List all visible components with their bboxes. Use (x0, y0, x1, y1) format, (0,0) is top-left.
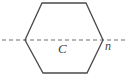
hexagon-outline (25, 3, 103, 73)
vertex-n-label: n (105, 40, 111, 52)
hexagon-figure: C n (0, 0, 132, 81)
center-label: C (58, 42, 67, 55)
